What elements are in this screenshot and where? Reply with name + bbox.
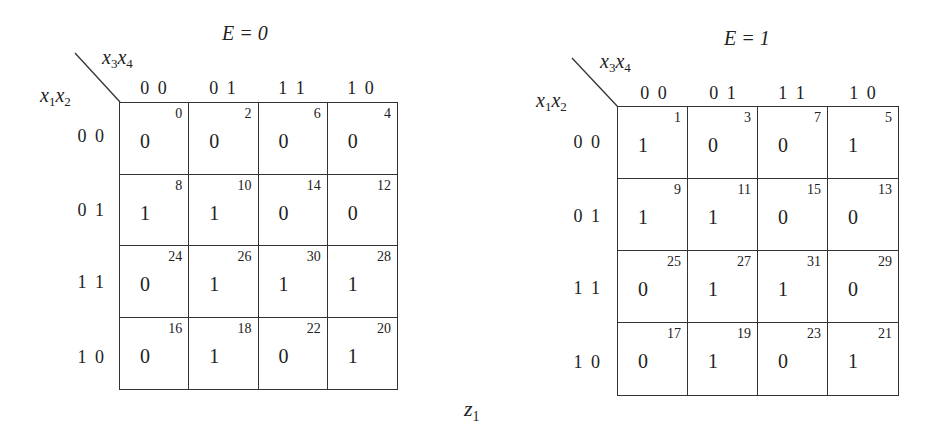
row-header: 1 1 (562, 278, 602, 299)
cell-value: 0 (778, 134, 788, 157)
minterm-index: 29 (878, 254, 892, 270)
kmap-cell: 013 (828, 179, 898, 251)
kmap-cell: 015 (758, 179, 828, 251)
kmap-cell: 017 (618, 323, 688, 395)
row-header: 0 0 (562, 132, 602, 153)
minterm-index: 19 (737, 326, 751, 342)
minterm-index: 11 (738, 182, 751, 198)
column-header: 1 1 (758, 83, 827, 104)
column-header: 0 0 (620, 83, 689, 104)
column-header: 1 0 (829, 83, 898, 104)
kmap-cell: 127 (688, 251, 758, 323)
kmap-cell: 15 (828, 107, 898, 179)
minterm-index: 23 (807, 326, 821, 342)
minterm-index: 9 (674, 182, 681, 198)
function-label: z1 (464, 396, 480, 425)
minterm-index: 5 (885, 110, 892, 126)
row-header: 1 0 (562, 352, 602, 373)
kmap-cell: 03 (688, 107, 758, 179)
kmap-cell: 111 (688, 179, 758, 251)
minterm-index: 21 (878, 326, 892, 342)
cell-value: 1 (638, 206, 648, 229)
cell-value: 1 (848, 134, 858, 157)
cell-value: 1 (708, 350, 718, 373)
kmap-cell: 11 (618, 107, 688, 179)
cell-value: 1 (708, 278, 718, 301)
kmap-cell: 131 (758, 251, 828, 323)
cell-value: 1 (708, 206, 718, 229)
minterm-index: 13 (878, 182, 892, 198)
kmap-grid: 11 03 07 15 19 111 015 013 025 127 131 0… (617, 106, 899, 396)
kmap-cell: 023 (758, 323, 828, 395)
row-variables-label: x1x2 (536, 89, 567, 115)
kmap-cell: 07 (758, 107, 828, 179)
kmap-e1: E = 1 x3x4 x1x2 0 0 0 1 1 1 1 0 0 0 0 1 … (0, 0, 947, 400)
kmap-cell: 121 (828, 323, 898, 395)
minterm-index: 25 (667, 254, 681, 270)
minterm-index: 27 (737, 254, 751, 270)
kmap-cell: 19 (618, 179, 688, 251)
cell-value: 0 (848, 278, 858, 301)
cell-value: 0 (638, 278, 648, 301)
cell-value: 1 (778, 278, 788, 301)
kmap-cell: 029 (828, 251, 898, 323)
cell-value: 0 (848, 206, 858, 229)
corner-diagonal (568, 50, 623, 110)
cell-value: 0 (778, 350, 788, 373)
minterm-index: 15 (807, 182, 821, 198)
cell-value: 0 (778, 206, 788, 229)
minterm-index: 7 (814, 110, 821, 126)
cell-value: 0 (638, 350, 648, 373)
cell-value: 1 (638, 134, 648, 157)
minterm-index: 17 (667, 326, 681, 342)
row-header: 0 1 (562, 206, 602, 227)
minterm-index: 3 (744, 110, 751, 126)
kmap-cell: 119 (688, 323, 758, 395)
column-header: 0 1 (689, 83, 758, 104)
map-title: E = 1 (724, 27, 770, 50)
minterm-index: 1 (674, 110, 681, 126)
cell-value: 1 (848, 350, 858, 373)
cell-value: 0 (708, 134, 718, 157)
kmap-cell: 025 (618, 251, 688, 323)
minterm-index: 31 (807, 254, 821, 270)
